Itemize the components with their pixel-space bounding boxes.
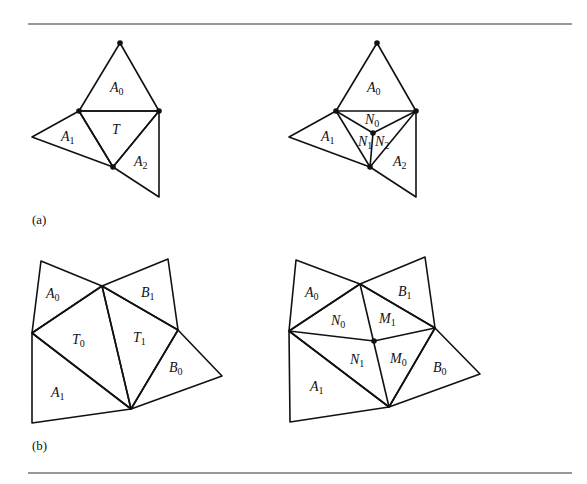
panel-a-left: A0A1TA2 bbox=[32, 40, 162, 197]
region-label: T bbox=[112, 122, 121, 137]
vertex bbox=[156, 108, 162, 114]
region-label: T0 bbox=[72, 332, 85, 349]
region-label: B1 bbox=[398, 284, 412, 301]
vertex bbox=[413, 108, 419, 114]
region-label: A0 bbox=[304, 285, 319, 302]
vertex bbox=[367, 164, 373, 170]
region-label: T1 bbox=[133, 330, 146, 347]
vertex bbox=[76, 108, 82, 114]
triangle-A0 bbox=[79, 43, 159, 111]
vertex bbox=[117, 40, 123, 46]
figure-canvas: A0A1TA2 A0A1N0N1N2A2 (a) A0B1T0T1B0A1 bbox=[0, 0, 587, 484]
region-label: A1 bbox=[309, 379, 324, 396]
region-label: A0 bbox=[109, 80, 124, 97]
triangle-A0 bbox=[336, 43, 416, 111]
region-label: M0 bbox=[389, 351, 407, 368]
panel-a-right: A0A1N0N1N2A2 bbox=[289, 40, 419, 197]
triangle-A0 bbox=[32, 261, 102, 333]
triangle-T1 bbox=[102, 286, 178, 409]
triangle-A0 bbox=[289, 260, 360, 331]
edge-M bbox=[374, 328, 435, 341]
region-label: A1 bbox=[320, 129, 335, 146]
region-label: A2 bbox=[133, 154, 148, 171]
region-label: N2 bbox=[374, 134, 389, 151]
region-label: N0 bbox=[364, 112, 379, 129]
region-label: M1 bbox=[378, 311, 396, 328]
region-label: N1 bbox=[357, 134, 372, 151]
region-label: B0 bbox=[169, 360, 183, 377]
vertex bbox=[110, 164, 116, 170]
region-label: B0 bbox=[433, 360, 447, 377]
edge-M bbox=[289, 331, 374, 341]
vertex bbox=[333, 108, 339, 114]
region-label: B1 bbox=[141, 285, 155, 302]
edge-N bbox=[373, 111, 416, 133]
region-label: A1 bbox=[60, 129, 75, 146]
vertex bbox=[374, 40, 380, 46]
panel-b-left: A0B1T0T1B0A1 bbox=[32, 259, 222, 423]
caption-b: (b) bbox=[32, 438, 47, 453]
region-label: A1 bbox=[50, 385, 65, 402]
region-label: N1 bbox=[349, 352, 364, 369]
panel-b-right: A0B1N0M1N1M0B0A1 bbox=[289, 257, 480, 422]
region-label: A2 bbox=[392, 154, 407, 171]
center-vertex bbox=[371, 338, 377, 344]
region-label: N0 bbox=[330, 313, 345, 330]
region-label: A0 bbox=[366, 80, 381, 97]
triangle-B1 bbox=[102, 259, 178, 330]
region-label: A0 bbox=[45, 286, 60, 303]
caption-a: (a) bbox=[32, 212, 46, 227]
